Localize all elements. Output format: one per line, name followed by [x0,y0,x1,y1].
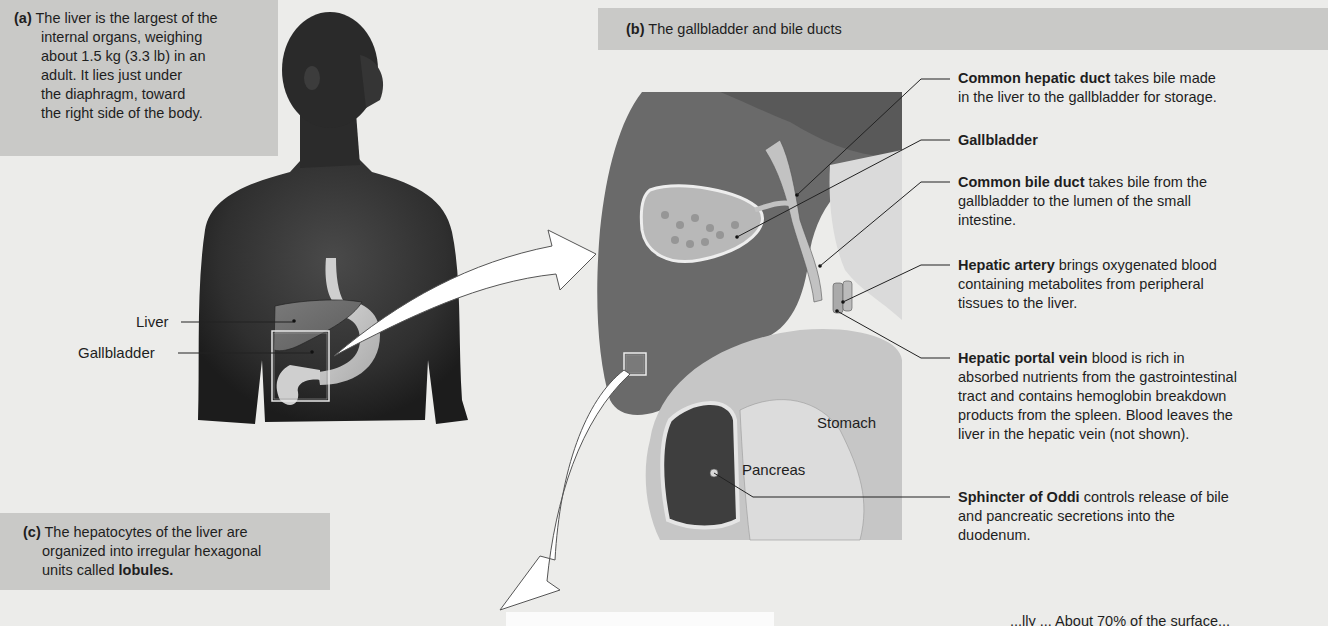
desc-term: Hepatic artery [958,257,1055,273]
desc-term: Common hepatic duct [958,70,1110,86]
panel-c-image-top-edge [506,612,774,626]
desc-text: intestine. [958,212,1016,228]
label-gallbladder: Gallbladder [78,344,155,361]
caption-c-line: units called lobules. [23,561,261,580]
panel-b-title: The gallbladder and bile ducts [648,21,841,37]
lobules-term: lobules. [119,562,174,578]
panel-a-tag: (a) [14,10,32,26]
desc-text: controls release of bile [1080,489,1229,505]
desc-text: blood is rich in [1088,350,1185,366]
desc-hepatic-artery: Hepatic artery brings oxygenated blood c… [958,256,1328,313]
caption-c-text: The hepatocytes of the liver are [45,524,248,540]
arrow-to-panel-c [500,370,630,610]
desc-text: gallbladder to the lumen of the small [958,193,1191,209]
caption-a-text: The liver is the largest of the [36,10,218,26]
caption-panel-b: (b) The gallbladder and bile ducts [598,8,1328,50]
caption-panel-a: (a) The liver is the largest of the inte… [0,0,278,156]
caption-c-line: (c) The hepatocytes of the liver are [23,523,261,542]
caption-a-line: the diaphragm, toward [14,85,276,104]
desc-text: duodenum. [958,527,1031,543]
caption-panel-c: (c) The hepatocytes of the liver are org… [0,513,330,590]
label-stomach: Stomach [817,414,876,431]
desc-term: Common bile duct [958,174,1084,190]
caption-a-line: the right side of the body. [14,104,276,123]
desc-text: brings oxygenated blood [1055,257,1217,273]
caption-a-line: internal organs, weighing [14,28,276,47]
label-liver: Liver [136,313,169,330]
desc-common-bile-duct: Common bile duct takes bile from the gal… [958,173,1328,230]
desc-gallbladder: Gallbladder [958,131,1328,150]
desc-text: takes bile made [1110,70,1216,86]
panel-c-tag: (c) [23,524,41,540]
desc-text: absorbed nutrients from the gastrointest… [958,369,1237,385]
caption-c-line: organized into irregular hexagonal [23,542,261,561]
label-pancreas: Pancreas [742,461,805,478]
desc-text: products from the spleen. Blood leaves t… [958,407,1233,423]
panel-b-tag: (b) [626,21,645,37]
caption-a-line: about 1.5 kg (3.3 lb) in an [14,47,276,66]
desc-text: containing metabolites from peripheral [958,276,1204,292]
desc-text: in the liver to the gallbladder for stor… [958,89,1217,105]
caption-a-line: (a) The liver is the largest of the [14,9,276,28]
desc-term: Sphincter of Oddi [958,489,1080,505]
bottom-cutoff-text: ...lly ... About 70% of the surface... [1010,612,1230,626]
desc-hepatic-portal-vein: Hepatic portal vein blood is rich in abs… [958,349,1328,444]
desc-text: takes bile from the [1084,174,1207,190]
caption-a-line: adult. It lies just under [14,66,276,85]
desc-term: Gallbladder [958,132,1038,148]
desc-text: liver in the hepatic vein (not shown). [958,426,1189,442]
desc-common-hepatic-duct: Common hepatic duct takes bile made in t… [958,69,1328,107]
desc-text: tissues to the liver. [958,295,1077,311]
desc-text: tract and contains hemoglobin breakdown [958,388,1226,404]
desc-text: and pancreatic secretions into the [958,508,1175,524]
desc-term: Hepatic portal vein [958,350,1088,366]
desc-sphincter-of-oddi: Sphincter of Oddi controls release of bi… [958,488,1328,545]
caption-c-text: units called [42,562,119,578]
